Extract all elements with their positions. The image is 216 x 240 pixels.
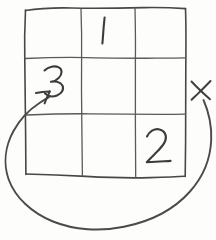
- cell-r2c2[interactable]: [82, 59, 135, 114]
- grid-edge-left: [25, 10, 26, 175]
- cell-r2c3[interactable]: [136, 59, 185, 114]
- x-mark[interactable]: [192, 81, 211, 100]
- cell-r1c1[interactable]: [26, 9, 81, 58]
- cell-r3c1[interactable]: [26, 115, 81, 176]
- grid-col-divider-2: [135, 8, 136, 177]
- cell-r1c3[interactable]: [136, 9, 185, 58]
- cell-r1c2[interactable]: [82, 9, 135, 58]
- grid-edge-right: [185, 9, 186, 177]
- cell-r3c2[interactable]: [82, 115, 135, 176]
- cell-r3c3[interactable]: [136, 115, 185, 176]
- sketch-drawing: [0, 0, 216, 240]
- sketch-canvas: 1 3 2 X Hand-drawn pencil sketch of a 3-…: [0, 0, 216, 240]
